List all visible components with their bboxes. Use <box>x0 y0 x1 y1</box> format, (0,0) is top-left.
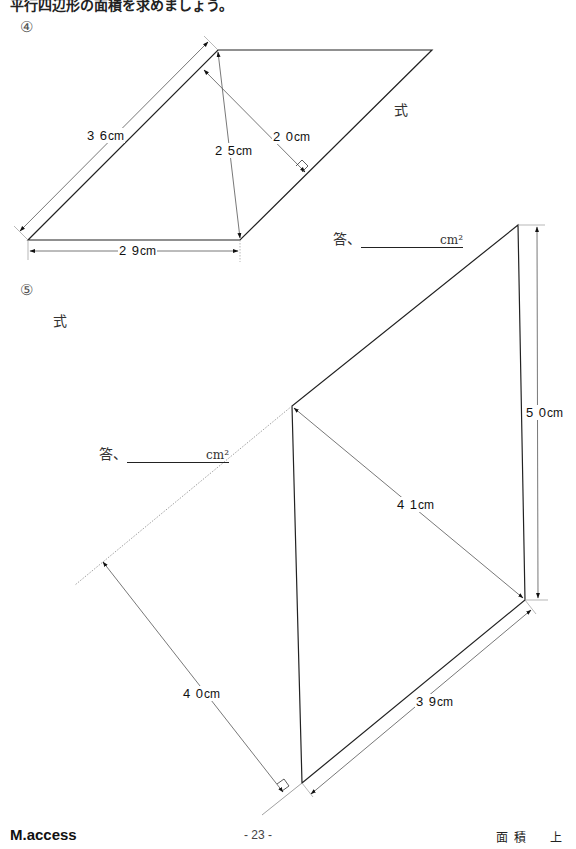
problem-number-5: ⑤ <box>20 281 33 299</box>
dimension-label-36: 3 6cm <box>86 128 125 143</box>
dimension-label-29: 2 9cm <box>118 243 157 258</box>
right-angle-mark-4 <box>296 160 308 172</box>
dimension-label-25: 2 5cm <box>214 143 253 158</box>
figure-5 <box>75 225 548 815</box>
dimension-label-40: 4 0cm <box>182 686 221 701</box>
answer-4: 答、cm² <box>333 228 463 248</box>
problem-number-4: ④ <box>20 18 33 36</box>
answer-blank-5[interactable]: cm² <box>127 448 229 463</box>
formula-label-5: 式 <box>53 310 67 330</box>
formula-label-4: 式 <box>394 99 408 119</box>
cut-off-instruction: 平行四辺形の面積を求めましょう。 <box>10 0 233 14</box>
answer-blank-4[interactable]: cm² <box>361 233 463 248</box>
dimension-label-41: 4 1cm <box>396 497 435 512</box>
footer-brand: M.access <box>10 826 77 843</box>
dimension-label-20: 2 0cm <box>272 129 311 144</box>
dimension-label-50: 5 0cm <box>525 405 564 420</box>
answer-5: 答、cm² <box>99 443 229 463</box>
dimension-label-39: 3 9cm <box>415 694 454 709</box>
footer-unit-title: 面積 上 <box>496 828 568 845</box>
dim-line-40 <box>103 562 283 792</box>
footer-page-number: - 23 - <box>244 828 272 842</box>
right-angle-mark-5 <box>277 779 289 791</box>
